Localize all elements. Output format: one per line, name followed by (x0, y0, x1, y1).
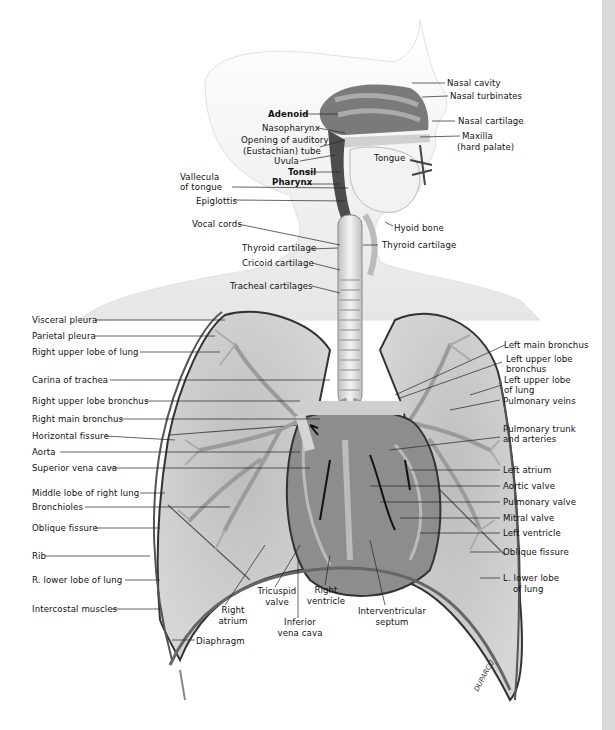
label-inferior-vena-cava-1: Inferior (278, 617, 322, 627)
label-right-atrium-2: atrium (216, 616, 250, 626)
label-tongue: Tongue (374, 153, 405, 163)
label-pulmonary-trunk-1: Pulmonary trunk (503, 424, 576, 434)
label-right-upper-lobe-of-lung: Right upper lobe of lung (32, 347, 139, 357)
label-middle-lobe-of-right-lung: Middle lobe of right lung (32, 488, 139, 498)
label-nasopharynx: Nasopharynx (262, 123, 320, 133)
label-pharynx: Pharynx (272, 177, 312, 187)
label-adenoid: Adenoid (268, 109, 308, 119)
label-left-upper-lobe-bronchus-1: Left upper lobe (506, 354, 573, 364)
label-uvula: Uvula (274, 156, 299, 166)
label-epiglottis: Epiglottis (196, 196, 237, 206)
label-vocal-cords: Vocal cords (192, 219, 242, 229)
label-parietal-pleura: Parietal pleura (32, 331, 96, 341)
label-nasal-turbinates: Nasal turbinates (450, 91, 522, 101)
label-visceral-pleura: Visceral pleura (32, 315, 97, 325)
label-left-ventricle: Left ventricle (503, 528, 561, 538)
label-thyroid-cartilage-right: Thyroid cartilage (382, 240, 456, 250)
label-right-ventricle-1: Right (306, 585, 346, 595)
label-tricuspid-1: Tricuspid (252, 586, 302, 596)
label-cricoid-cartilage: Cricoid cartilage (242, 258, 314, 268)
label-left-upper-lobe-of-lung-2: of lung (504, 385, 534, 395)
label-auditory-tube-2: (Eustachian) tube (243, 146, 321, 156)
label-oblique-fissure-right: Oblique fissure (32, 523, 98, 533)
label-bronchioles: Bronchioles (32, 502, 83, 512)
label-right-ventricle-2: ventricle (302, 596, 350, 606)
label-intercostal-muscles: Intercostal muscles (32, 604, 117, 614)
label-oblique-fissure-left: Oblique fissure (503, 547, 569, 557)
label-superior-vena-cava: Superior vena cava (32, 463, 117, 473)
label-right-atrium-1: Right (218, 605, 248, 615)
label-aortic-valve: Aortic valve (503, 481, 555, 491)
label-hard-palate: (hard palate) (457, 142, 514, 152)
label-pulmonary-valve: Pulmonary valve (503, 497, 576, 507)
label-hyoid-bone: Hyoid bone (394, 223, 444, 233)
label-maxilla: Maxilla (462, 131, 493, 141)
label-r-lower-lobe-of-lung: R. lower lobe of lung (32, 575, 122, 585)
label-tracheal-cartilages: Tracheal cartilages (230, 281, 313, 291)
label-carina-of-trachea: Carina of trachea (32, 375, 108, 385)
label-left-upper-lobe-bronchus-2: bronchus (506, 364, 546, 374)
label-l-lower-lobe-2: of lung (513, 584, 543, 594)
label-right-main-bronchus: Right main bronchus (32, 414, 123, 424)
artist-signature: DUPARCQ (473, 658, 496, 693)
label-left-atrium: Left atrium (503, 465, 551, 475)
label-pulmonary-veins: Pulmonary veins (503, 396, 576, 406)
label-nasal-cavity: Nasal cavity (447, 78, 501, 88)
anatomy-figure: DUPARCQ Nasal cavity Nasal turbinates Na… (0, 0, 602, 730)
label-inferior-vena-cava-2: vena cava (274, 628, 326, 638)
label-interventricular-2: septum (352, 617, 432, 627)
label-tricuspid-2: valve (252, 597, 302, 607)
label-left-main-bronchus: Left main bronchus (504, 340, 589, 350)
side-gray-strip (602, 0, 615, 730)
label-vallecula-2: of tongue (180, 182, 222, 192)
label-right-upper-lobe-bronchus: Right upper lobe bronchus (32, 396, 149, 406)
label-interventricular-1: Interventricular (352, 606, 432, 616)
label-left-upper-lobe-of-lung-1: Left upper lobe (504, 375, 571, 385)
label-rib: Rib (32, 551, 46, 561)
label-nasal-cartilage: Nasal cartilage (458, 116, 524, 126)
label-thyroid-cartilage-left: Thyroid cartilage (242, 243, 316, 253)
label-l-lower-lobe-1: L. lower lobe (503, 573, 559, 583)
label-pulmonary-trunk-2: and arteries (503, 434, 556, 444)
label-aorta: Aorta (32, 447, 56, 457)
label-tonsil: Tonsil (288, 167, 316, 177)
label-mitral-valve: Mitral valve (503, 513, 554, 523)
label-vallecula-1: Vallecula (180, 172, 219, 182)
label-diaphragm: Diaphragm (196, 636, 245, 646)
label-auditory-tube-1: Opening of auditory (241, 135, 329, 145)
label-horizontal-fissure: Horizontal fissure (32, 431, 109, 441)
